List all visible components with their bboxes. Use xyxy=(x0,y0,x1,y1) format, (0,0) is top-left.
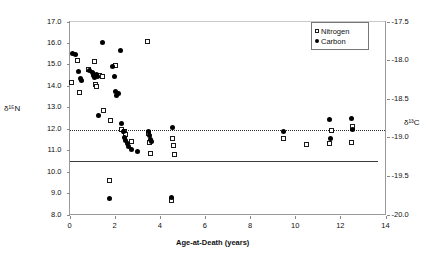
nitrogen-trendline-solid xyxy=(70,161,378,163)
data-point-nitrogen xyxy=(108,118,113,123)
right-tick-mark xyxy=(387,215,390,216)
left-tick-label: 12.0 xyxy=(36,124,62,133)
data-point-carbon xyxy=(350,127,355,132)
legend-label-nitrogen: Nitrogen xyxy=(321,27,349,36)
chart-legend: Nitrogen Carbon xyxy=(311,22,369,50)
carbon-trendline-dotted xyxy=(70,130,385,131)
x-tick-mark xyxy=(70,216,71,219)
x-tick-mark xyxy=(386,216,387,219)
right-tick-mark xyxy=(387,137,390,138)
left-tick-label: 16.0 xyxy=(36,38,62,47)
data-point-carbon xyxy=(73,52,78,57)
plot-left-axis-spine xyxy=(69,21,70,214)
data-point-carbon xyxy=(327,117,332,122)
legend-item-nitrogen: Nitrogen xyxy=(315,26,349,36)
data-point-carbon xyxy=(95,74,100,79)
right-tick-label: -20.0 xyxy=(392,210,420,219)
data-point-carbon xyxy=(116,91,121,96)
x-tick-label: 4 xyxy=(153,221,167,230)
data-point-carbon xyxy=(112,74,117,79)
left-tick-mark xyxy=(67,43,70,44)
left-tick-mark xyxy=(67,172,70,173)
left-tick-label: 11.0 xyxy=(36,145,62,154)
data-point-nitrogen xyxy=(129,139,134,144)
data-point-carbon xyxy=(107,196,112,201)
data-point-nitrogen xyxy=(75,58,80,63)
data-point-nitrogen xyxy=(148,151,153,156)
data-point-nitrogen xyxy=(107,178,112,183)
right-axis-title: δ¹³C xyxy=(404,118,420,127)
x-tick-mark xyxy=(340,216,341,219)
plot-right-axis-spine xyxy=(385,21,386,214)
right-tick-label: -19.5 xyxy=(392,171,420,180)
x-tick-label: 10 xyxy=(288,221,302,230)
data-point-nitrogen xyxy=(77,90,82,95)
data-point-nitrogen xyxy=(92,59,97,64)
left-tick-mark xyxy=(67,129,70,130)
x-axis-title: Age-at-Death (years) xyxy=(176,238,249,247)
right-tick-mark xyxy=(387,99,390,100)
left-tick-label: 14.0 xyxy=(36,81,62,90)
data-point-carbon xyxy=(328,136,333,141)
left-tick-mark xyxy=(67,193,70,194)
x-tick-label: 0 xyxy=(63,221,77,230)
plot-bottom-axis-spine xyxy=(69,214,386,215)
data-point-nitrogen xyxy=(171,143,176,148)
left-tick-mark xyxy=(67,22,70,23)
left-tick-label: 15.0 xyxy=(36,59,62,68)
data-point-carbon xyxy=(110,64,115,69)
data-point-carbon xyxy=(135,149,140,154)
right-tick-label: -17.5 xyxy=(392,17,420,26)
data-point-nitrogen xyxy=(349,140,354,145)
data-point-carbon xyxy=(119,121,124,126)
data-point-carbon xyxy=(96,113,101,118)
right-tick-mark xyxy=(387,60,390,61)
x-tick-label: 2 xyxy=(108,221,122,230)
x-tick-mark xyxy=(250,216,251,219)
right-tick-mark xyxy=(387,22,390,23)
x-tick-mark xyxy=(160,216,161,219)
data-point-carbon xyxy=(281,129,286,134)
data-point-carbon xyxy=(129,147,134,152)
left-tick-mark xyxy=(67,86,70,87)
data-point-nitrogen xyxy=(100,74,105,79)
left-tick-label: 13.0 xyxy=(36,102,62,111)
left-tick-label: 9.0 xyxy=(36,188,62,197)
scatter-chart: 8.09.010.011.012.013.014.015.016.017.0 -… xyxy=(0,0,432,264)
data-point-nitrogen xyxy=(327,141,332,146)
data-point-carbon xyxy=(149,139,154,144)
data-point-nitrogen xyxy=(101,108,106,113)
left-axis-title: δ¹⁵N xyxy=(4,104,20,113)
legend-item-carbon: Carbon xyxy=(315,36,346,46)
right-tick-label: -18.0 xyxy=(392,55,420,64)
data-point-carbon xyxy=(76,69,81,74)
x-tick-label: 12 xyxy=(333,221,347,230)
x-tick-mark xyxy=(115,216,116,219)
filled-circle-icon xyxy=(315,39,319,43)
right-tick-label: -19.0 xyxy=(392,132,420,141)
data-point-nitrogen xyxy=(172,152,177,157)
legend-label-carbon: Carbon xyxy=(321,37,346,46)
left-tick-label: 10.0 xyxy=(36,167,62,176)
data-point-nitrogen xyxy=(145,39,150,44)
x-tick-label: 14 xyxy=(379,221,393,230)
left-tick-label: 8.0 xyxy=(36,210,62,219)
data-point-carbon xyxy=(170,125,175,130)
data-point-nitrogen xyxy=(94,84,99,89)
x-tick-mark xyxy=(205,216,206,219)
data-point-carbon xyxy=(118,48,123,53)
data-point-nitrogen xyxy=(304,142,309,147)
data-point-nitrogen xyxy=(329,128,334,133)
open-square-icon xyxy=(315,29,319,33)
data-point-carbon xyxy=(100,40,105,45)
x-tick-label: 6 xyxy=(198,221,212,230)
x-tick-label: 8 xyxy=(243,221,257,230)
left-tick-mark xyxy=(67,107,70,108)
right-tick-mark xyxy=(387,176,390,177)
left-tick-mark xyxy=(67,64,70,65)
data-point-nitrogen xyxy=(170,136,175,141)
data-point-nitrogen xyxy=(69,80,74,85)
left-tick-label: 17.0 xyxy=(36,17,62,26)
right-tick-label: -18.5 xyxy=(392,94,420,103)
data-point-carbon xyxy=(169,195,174,200)
